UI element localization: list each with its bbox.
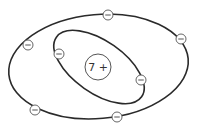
nucleus: 7 +	[85, 54, 111, 80]
nucleus-charge-label: 7 +	[88, 61, 108, 74]
outer-shell-electron	[176, 34, 186, 44]
atom-diagram: 7 +	[0, 0, 198, 130]
outer-shell-electron	[23, 40, 33, 50]
inner-shell-electron	[136, 75, 146, 85]
inner-shell-electron	[54, 49, 64, 59]
outer-shell-electron	[103, 10, 113, 20]
outer-shell-electron	[112, 112, 122, 122]
outer-shell-electron	[30, 105, 40, 115]
